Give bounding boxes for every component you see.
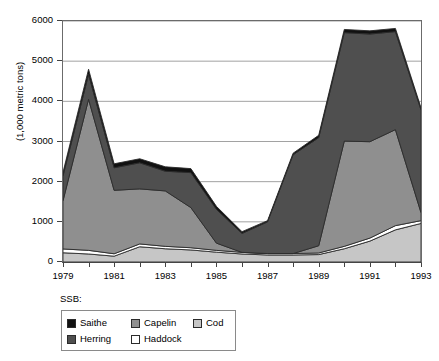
x-tick-label: 1985 [206,271,227,281]
y-axis: (1,000 metric tons) 01000200030004000500… [0,0,62,283]
legend-item-herring[interactable]: Herring [67,334,131,344]
y-axis-title: (1,000 metric tons) [14,37,25,167]
legend-item-saithe[interactable]: Saithe [67,318,131,328]
y-tick-label: 0 [48,256,53,266]
chart-figure: (1,000 metric tons) 01000200030004000500… [0,0,439,361]
x-tick-mark [268,263,269,267]
x-tick-mark [344,263,345,267]
legend-label: Cod [206,318,223,328]
x-tick-mark [63,263,64,267]
y-tick-label: 4000 [32,96,53,106]
legend-swatch-icon [193,319,202,328]
y-tick-label: 1000 [32,216,53,226]
legend-label: Saithe [80,318,107,328]
y-tick-label: 2000 [32,176,53,186]
x-tick-label: 1991 [359,271,380,281]
legend-box: SaitheCapelinCodHerringHaddock [61,310,236,351]
x-tick-label: 1983 [155,271,176,281]
legend-swatch-icon [67,319,76,328]
legend-item-capelin[interactable]: Capelin [131,318,193,328]
x-tick-mark [165,263,166,267]
x-tick-mark [114,263,115,267]
x-tick-label: 1989 [308,271,329,281]
x-tick-mark [216,263,217,267]
x-tick-mark [395,263,396,267]
y-tick-label: 3000 [32,136,53,146]
x-tick-mark [421,263,422,267]
y-tick-label: 5000 [32,55,53,65]
legend-swatch-icon [67,335,76,344]
legend-grid: SaitheCapelinCodHerringHaddock [67,315,233,347]
x-tick-mark [140,263,141,267]
x-tick-label: 1993 [410,271,431,281]
legend-swatch-icon [131,335,140,344]
legend-swatch-icon [131,319,140,328]
x-tick-mark [370,263,371,267]
stacked-area-plot [63,21,421,262]
legend-label: Haddock [144,334,182,344]
plot-area [62,20,422,263]
x-tick-mark [293,263,294,267]
x-axis: 19791981198319851987198919911993 [62,263,423,289]
y-tick-label: 6000 [32,15,53,25]
x-tick-mark [89,263,90,267]
x-tick-label: 1981 [104,271,125,281]
legend-label: Herring [80,334,111,344]
x-tick-mark [242,263,243,267]
x-tick-label: 1987 [257,271,278,281]
legend-item-haddock[interactable]: Haddock [131,334,193,344]
x-tick-label: 1979 [52,271,73,281]
legend-title: SSB: [60,294,82,304]
x-tick-mark [191,263,192,267]
legend-label: Capelin [144,318,176,328]
x-tick-mark [319,263,320,267]
legend-item-cod[interactable]: Cod [193,318,233,328]
